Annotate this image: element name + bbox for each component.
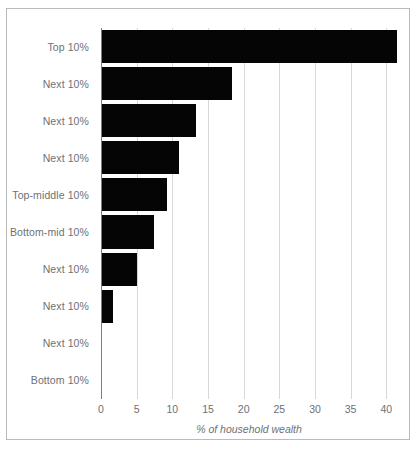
x-tick-label: 40 [380, 403, 392, 415]
x-tick-label: 35 [345, 403, 357, 415]
bars-layer [101, 28, 397, 399]
bar-row [101, 139, 397, 176]
plot-area [101, 28, 397, 399]
y-axis-category-label: Next 10% [43, 152, 95, 164]
bar-row [101, 362, 397, 399]
x-tick-label: 25 [273, 403, 285, 415]
bar-row [101, 28, 397, 65]
bar-row [101, 102, 397, 139]
y-axis-category-row: Bottom-mid 10% [7, 213, 95, 250]
y-axis-category-label: Top-middle 10% [12, 189, 95, 201]
y-axis-category-row: Top-middle 10% [7, 176, 95, 213]
y-axis-category-label: Next 10% [43, 300, 95, 312]
bar[interactable] [101, 215, 154, 248]
y-axis-category-row: Bottom 10% [7, 362, 95, 399]
x-tick-label: 30 [309, 403, 321, 415]
chart-frame: Top 10%Next 10%Next 10%Next 10%Top-middl… [6, 8, 410, 440]
y-axis-category-label: Bottom-mid 10% [10, 226, 95, 238]
x-tick-label: 15 [202, 403, 214, 415]
y-axis-category-labels: Top 10%Next 10%Next 10%Next 10%Top-middl… [7, 28, 95, 399]
bar[interactable] [101, 141, 179, 174]
y-axis-category-label: Bottom 10% [31, 374, 95, 386]
bar-row [101, 213, 397, 250]
y-axis-category-row: Next 10% [7, 102, 95, 139]
x-tick-label: 5 [134, 403, 140, 415]
x-tick-label: 10 [166, 403, 178, 415]
y-axis-category-row: Top 10% [7, 28, 95, 65]
y-axis-category-label: Top 10% [47, 41, 95, 53]
bar[interactable] [101, 67, 232, 100]
x-tick-label: 20 [238, 403, 250, 415]
y-axis-category-label: Next 10% [43, 337, 95, 349]
y-axis-category-row: Next 10% [7, 288, 95, 325]
bar-row [101, 288, 397, 325]
y-axis-category-row: Next 10% [7, 325, 95, 362]
bar[interactable] [101, 290, 113, 323]
y-axis-category-row: Next 10% [7, 139, 95, 176]
x-axis-tick-labels: 0510152025303540 [101, 403, 397, 419]
bar-row [101, 325, 397, 362]
y-axis-category-label: Next 10% [43, 115, 95, 127]
bar[interactable] [101, 178, 167, 211]
y-axis-category-label: Next 10% [43, 78, 95, 90]
y-axis-category-row: Next 10% [7, 65, 95, 102]
bar-row [101, 176, 397, 213]
y-axis-category-row: Next 10% [7, 251, 95, 288]
y-axis-category-label: Next 10% [43, 263, 95, 275]
bar[interactable] [101, 104, 196, 137]
bar-row [101, 65, 397, 102]
x-axis-title: % of household wealth [101, 423, 397, 435]
x-tick-label: 0 [98, 403, 104, 415]
bar-row [101, 251, 397, 288]
bar[interactable] [101, 253, 137, 286]
bar[interactable] [101, 30, 397, 63]
y-axis-line [101, 28, 102, 399]
